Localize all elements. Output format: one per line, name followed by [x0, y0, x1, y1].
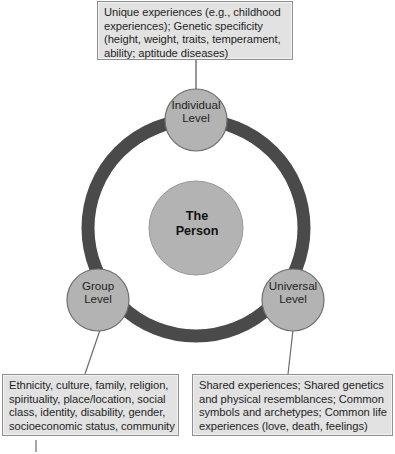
universal-callout-line2: and physical resemblances; Common	[199, 393, 386, 407]
group-callout-line1: Ethnicity, culture, family, religion,	[9, 379, 172, 393]
individual-level-callout-box: Unique experiences (e.g., childhood expe…	[97, 1, 293, 60]
group-level-circle[interactable]	[67, 269, 129, 331]
universal-level-circle[interactable]	[262, 269, 324, 331]
individual-callout-line4: ability; aptitude diseases)	[104, 47, 286, 61]
diagram-canvas: Individual Level Group Level Universal L…	[0, 0, 395, 454]
individual-callout-line1: Unique experiences (e.g., childhood	[104, 6, 286, 20]
group-level-callout-box: Ethnicity, culture, family, religion, sp…	[2, 374, 179, 436]
group-callout-line3: class, identity, disability, gender,	[9, 406, 172, 420]
connector-group	[85, 330, 100, 374]
center-circle	[149, 181, 243, 275]
universal-callout-line3: symbols and archetypes; Common life	[199, 406, 386, 420]
group-callout-line2: spirituality, place/location, social	[9, 393, 172, 407]
universal-callout-line4: experiences (love, death, feelings)	[199, 420, 386, 434]
connector-universal	[288, 330, 293, 374]
individual-level-circle[interactable]	[165, 89, 227, 151]
universal-level-callout-box: Shared experiences; Shared genetics and …	[192, 374, 393, 436]
universal-callout-line1: Shared experiences; Shared genetics	[199, 379, 386, 393]
group-callout-line4: socioeconomic status, community	[9, 420, 172, 434]
individual-callout-line3: (height, weight, traits, temperament,	[104, 33, 286, 47]
individual-callout-line2: experiences); Genetic specificity	[104, 20, 286, 34]
